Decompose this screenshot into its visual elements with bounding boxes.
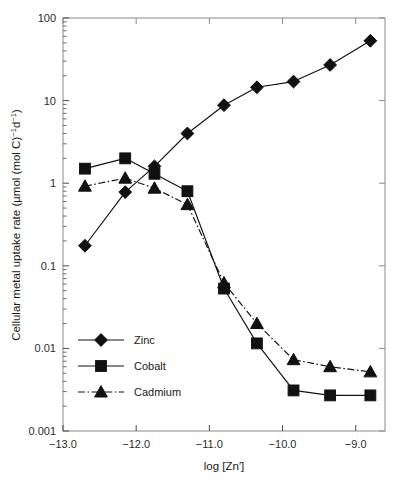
y-axis-title: Cellular metal uptake rate (µmol (mol C)… [9,109,22,341]
y-tick-label: 0.01 [35,342,56,354]
legend-label: Zinc [134,334,155,346]
y-tick-label: 10 [44,95,56,107]
legend-label: Cadmium [134,386,181,398]
y-tick-label: 0.001 [28,425,56,437]
data-point [288,385,299,396]
data-point [120,153,131,164]
data-point [149,168,160,179]
data-point [80,163,91,174]
chart-background [0,0,397,483]
x-axis-title: log [Zn′] [204,460,245,472]
data-point [325,390,336,401]
y-tick-label: 1 [50,177,56,189]
y-tick-label: 100 [38,12,56,24]
x-tick-label: −9.0 [345,438,367,450]
data-point [252,338,263,349]
x-tick-label: −10.0 [269,438,297,450]
x-tick-label: −11.0 [196,438,223,450]
metal-uptake-chart: 0.0010.010.1110100 −13.0−12.0−11.0−10.0−… [0,0,397,483]
y-tick-label: 0.1 [41,260,56,272]
legend-marker-cobalt [96,361,107,372]
x-tick-label: −13.0 [49,438,77,450]
x-tick-label: −12.0 [122,438,150,450]
legend-label: Cobalt [134,360,166,372]
data-point [365,390,376,401]
figure-container: 0.0010.010.1110100 −13.0−12.0−11.0−10.0−… [0,0,397,483]
data-point [182,186,193,197]
